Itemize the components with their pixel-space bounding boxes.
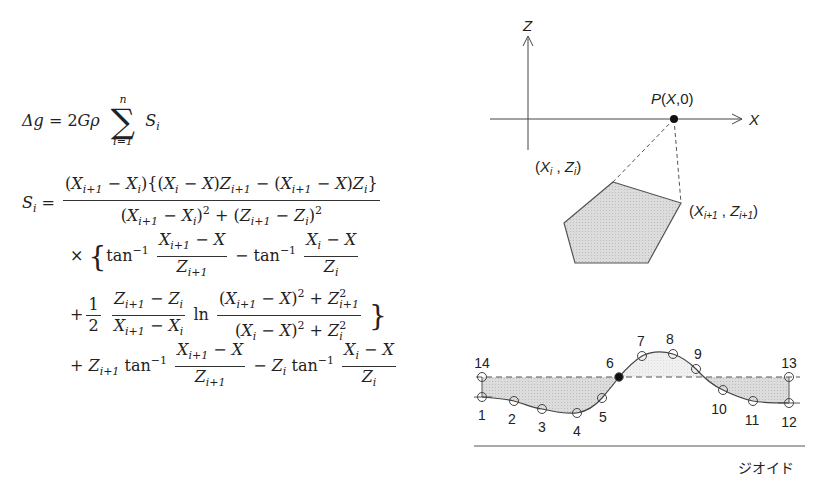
polygon-diagram: Z X P(X,0) (Xi , Zi) (Xi+1 , Zi+1) <box>490 17 760 263</box>
profile-point-14 <box>478 373 487 382</box>
profile-point-label-2: 2 <box>508 411 516 427</box>
dashed-line-to-vertex-i <box>613 119 674 182</box>
point-p-marker <box>670 115 678 123</box>
profile-point-5 <box>598 394 607 403</box>
profile-point-7 <box>638 352 647 361</box>
x-axis-label: X <box>748 111 760 128</box>
profile-point-2 <box>510 397 519 406</box>
point-p-label: P(X,0) <box>651 90 694 107</box>
profile-point-label-5: 5 <box>599 409 607 425</box>
profile-point-label-12: 12 <box>781 414 797 430</box>
profile-point-13 <box>785 373 794 382</box>
profile-point-label-1: 1 <box>478 407 486 423</box>
profile-point-label-6: 6 <box>606 355 614 371</box>
z-axis-label: Z <box>522 17 533 34</box>
profile-diagram: 1234567891011121314 ジオイド <box>474 331 805 476</box>
profile-point-3 <box>538 405 547 414</box>
profile-point-label-8: 8 <box>666 331 674 347</box>
profile-point-label-4: 4 <box>573 423 581 439</box>
profile-point-9 <box>692 365 701 374</box>
profile-point-label-11: 11 <box>745 412 760 428</box>
profile-point-4 <box>573 409 582 418</box>
profile-point-8 <box>669 350 678 359</box>
profile-point-label-13: 13 <box>781 355 797 371</box>
profile-point-label-9: 9 <box>694 346 702 362</box>
dashed-line-to-vertex-i1 <box>674 119 681 203</box>
body-polygon <box>564 182 681 263</box>
profile-point-label-3: 3 <box>538 419 546 435</box>
geoid-label: ジオイド <box>738 460 794 476</box>
vertex-i1-label: (Xi+1 , Zi+1) <box>689 202 758 221</box>
diagrams: Z X P(X,0) (Xi , Zi) (Xi+1 , Zi+1) <box>0 0 821 494</box>
profile-point-1 <box>478 393 487 402</box>
profile-point-label-14: 14 <box>474 355 490 371</box>
vertex-i-label: (Xi , Zi) <box>535 158 581 177</box>
profile-point-10 <box>719 386 728 395</box>
profile-point-12 <box>785 399 794 408</box>
profile-point-label-10: 10 <box>711 401 727 417</box>
profile-point-label-7: 7 <box>637 333 645 349</box>
profile-point-11 <box>749 397 758 406</box>
profile-point-6 <box>615 373 623 381</box>
